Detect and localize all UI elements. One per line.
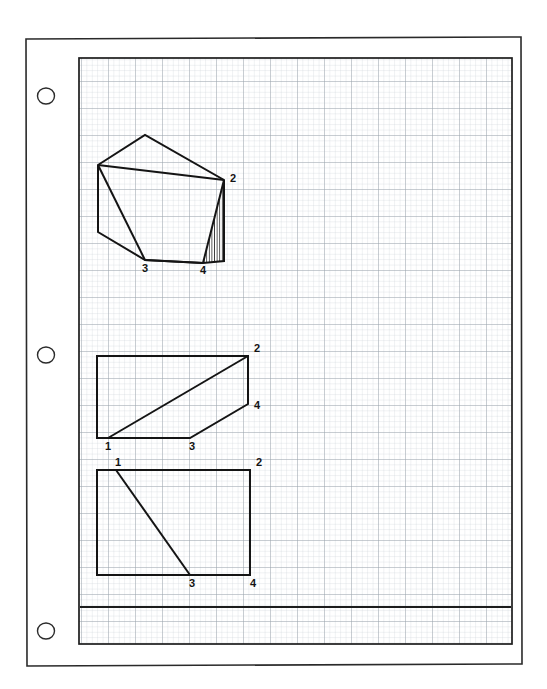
pictorial-label-2: 2 [230,172,236,184]
bottom-view-label-1: 1 [115,456,121,468]
front-view-label-3: 3 [189,440,195,452]
pictorial-label-4: 4 [200,264,207,276]
front-view-label-2: 2 [254,342,260,354]
bottom-view-label-4: 4 [250,577,257,589]
bottom-view-label-3: 3 [189,577,195,589]
punch-hole-middle [38,347,55,363]
worksheet-page: 2 3 4 2 4 1 3 1 2 3 4 [0,0,547,689]
pictorial-label-3: 3 [142,262,148,274]
punch-hole-top [38,88,55,104]
drawing-canvas: 2 3 4 2 4 1 3 1 2 3 4 [0,0,547,689]
punch-hole-bottom [38,623,55,639]
grid-area [79,58,512,644]
front-view-label-4: 4 [254,399,261,411]
graph-paper-grid [79,58,512,644]
front-view-label-1: 1 [105,440,111,452]
bottom-view-label-2: 2 [256,456,262,468]
